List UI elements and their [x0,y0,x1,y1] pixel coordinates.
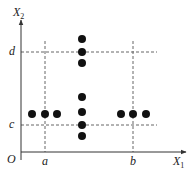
data-point [142,110,150,118]
data-point [78,48,86,56]
tick-label-d: d [9,45,15,57]
data-point [28,110,36,118]
y-axis-label: X2 [13,6,24,21]
data-point [53,110,61,118]
tick-label-a: a [42,155,48,167]
data-point [41,110,49,118]
x-axis-label: X1 [173,155,184,170]
dashed-guides [21,41,157,152]
data-point [117,110,125,118]
data-point [78,132,86,140]
data-point [78,108,86,116]
data-point [78,59,86,67]
data-point [78,121,86,129]
data-point [78,93,86,101]
data-point [129,110,137,118]
tick-label-c: c [9,118,14,130]
data-points [28,35,150,140]
tick-label-b: b [130,155,136,167]
data-point [78,35,86,43]
scatter-diagram [0,0,193,174]
origin-label: O [7,153,16,165]
